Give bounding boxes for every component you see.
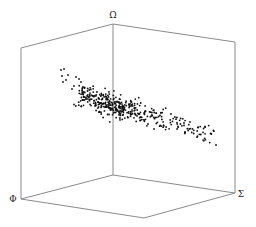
data-point xyxy=(102,103,104,105)
data-point xyxy=(204,126,206,128)
data-point xyxy=(125,102,127,104)
data-point xyxy=(108,107,110,109)
data-point xyxy=(92,85,94,87)
box-edge xyxy=(21,199,144,218)
data-point xyxy=(128,104,130,106)
data-point xyxy=(98,104,100,106)
data-point xyxy=(109,121,111,123)
data-point xyxy=(136,109,138,111)
data-point xyxy=(121,119,123,121)
data-point xyxy=(122,114,124,116)
data-point xyxy=(160,125,162,127)
data-point xyxy=(112,103,114,105)
data-point xyxy=(89,92,91,94)
data-point xyxy=(119,117,121,119)
data-point xyxy=(61,75,63,77)
data-point xyxy=(104,110,106,112)
data-point xyxy=(130,111,132,113)
scatter-3d-plot: Ω Φ Σ xyxy=(0,0,256,227)
data-point xyxy=(89,87,91,89)
data-point xyxy=(125,105,127,107)
data-point xyxy=(121,101,123,103)
data-point xyxy=(73,85,75,87)
data-point xyxy=(139,120,141,122)
data-point xyxy=(120,94,122,96)
data-point xyxy=(204,137,206,139)
z-axis-label: Ω xyxy=(109,10,116,20)
data-point xyxy=(108,114,110,116)
data-point xyxy=(161,112,163,114)
data-point xyxy=(192,128,194,130)
data-point xyxy=(135,121,137,123)
data-point xyxy=(165,129,167,131)
data-point xyxy=(107,99,109,101)
data-point xyxy=(78,78,80,80)
data-point xyxy=(80,100,82,102)
data-point xyxy=(93,96,95,98)
data-point xyxy=(105,93,107,95)
data-point xyxy=(130,115,132,117)
data-point xyxy=(169,122,171,124)
data-point xyxy=(124,117,126,119)
data-point xyxy=(98,111,100,113)
data-point xyxy=(113,90,115,92)
data-point xyxy=(103,96,105,98)
data-point xyxy=(94,105,96,107)
data-point xyxy=(197,126,199,128)
data-point xyxy=(98,106,100,108)
data-point xyxy=(135,114,137,116)
data-point xyxy=(161,119,163,121)
data-point xyxy=(196,130,198,132)
data-point xyxy=(96,91,98,93)
data-point xyxy=(184,131,186,133)
data-point xyxy=(153,117,155,119)
data-point xyxy=(151,108,153,110)
data-point xyxy=(170,113,172,115)
data-point xyxy=(149,111,151,113)
data-point xyxy=(133,110,135,112)
data-point xyxy=(172,118,174,120)
data-point xyxy=(162,126,164,128)
box-edge xyxy=(113,24,235,42)
data-point xyxy=(193,129,195,131)
data-point xyxy=(78,90,80,92)
data-point xyxy=(213,130,215,132)
data-point xyxy=(200,134,202,136)
data-point xyxy=(144,119,146,121)
data-point xyxy=(153,128,155,130)
data-point xyxy=(138,97,140,99)
data-point xyxy=(184,120,186,122)
data-point xyxy=(67,74,69,76)
data-point xyxy=(93,102,95,104)
data-point xyxy=(210,133,212,135)
data-point xyxy=(170,124,172,126)
data-point xyxy=(123,105,125,107)
data-point xyxy=(100,113,102,115)
data-point xyxy=(169,119,171,121)
data-point xyxy=(186,128,188,130)
data-point xyxy=(181,125,183,127)
data-point xyxy=(162,121,164,123)
data-point xyxy=(108,93,110,95)
data-point xyxy=(73,104,75,106)
data-point xyxy=(78,93,80,95)
data-point xyxy=(121,103,123,105)
data-point xyxy=(87,88,89,90)
data-point xyxy=(114,101,116,103)
data-point xyxy=(114,107,116,109)
data-point xyxy=(139,105,141,107)
data-point xyxy=(107,104,109,106)
data-point xyxy=(90,89,92,91)
data-point xyxy=(87,90,89,92)
data-point xyxy=(196,136,198,138)
data-point xyxy=(80,81,82,83)
data-point xyxy=(95,94,97,96)
data-point xyxy=(119,98,121,100)
data-point xyxy=(127,116,129,118)
data-point xyxy=(87,101,89,103)
data-point xyxy=(85,97,87,99)
data-point xyxy=(203,128,205,130)
data-point xyxy=(80,105,82,107)
data-point xyxy=(119,114,121,116)
data-point xyxy=(209,142,211,144)
